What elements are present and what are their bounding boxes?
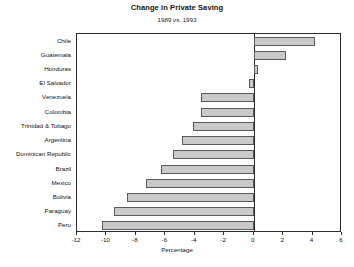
chart-subtitle: 1989 vs. 1993: [0, 16, 354, 23]
x-tick-label: 0: [251, 236, 254, 243]
x-tick-label: -2: [220, 236, 226, 243]
x-tick-mark: [253, 232, 254, 235]
y-axis-label: Paraguay: [45, 207, 72, 214]
bar: [201, 93, 254, 102]
bar: [161, 165, 254, 174]
bar: [173, 150, 254, 159]
bar: [254, 51, 286, 60]
chart-container: Change in Private Saving 1989 vs. 1993 C…: [0, 0, 354, 267]
chart-title: Change in Private Saving: [0, 3, 354, 12]
x-tick-label: -12: [72, 236, 81, 243]
x-tick-mark: [164, 232, 165, 235]
y-axis-label: Dominican Republic: [16, 150, 71, 157]
y-axis-label: Chile: [57, 37, 71, 44]
x-tick-mark: [223, 232, 224, 235]
y-axis-label: Venezuela: [42, 93, 71, 100]
y-axis-label: Bolivia: [53, 193, 71, 200]
bar: [146, 179, 253, 188]
x-tick-mark: [312, 232, 313, 235]
y-axis-label: Brazil: [56, 165, 71, 172]
y-axis-label: Peru: [58, 221, 71, 228]
y-axis-label: Argentina: [45, 136, 72, 143]
bar: [127, 193, 254, 202]
bar: [254, 37, 316, 46]
x-tick-mark: [282, 232, 283, 235]
x-tick-label: -8: [132, 236, 138, 243]
x-tick-mark: [76, 232, 77, 235]
y-axis-label: El Salvador: [39, 79, 71, 86]
y-axis-label: Trinidad & Tobago: [21, 122, 71, 129]
x-tick-label: -10: [101, 236, 110, 243]
y-axis-category-labels: ChileGuatemalaHondurasEl SalvadorVenezue…: [0, 33, 74, 232]
x-tick-label: -6: [162, 236, 168, 243]
bar: [182, 136, 254, 145]
x-tick-label: 6: [339, 236, 342, 243]
y-axis-label: Colombia: [45, 108, 71, 115]
bar: [254, 65, 258, 74]
bar: [102, 221, 254, 230]
x-tick-mark: [341, 232, 342, 235]
x-tick-mark: [194, 232, 195, 235]
y-axis-label: Honduras: [44, 65, 71, 72]
bar: [249, 79, 253, 88]
bar: [193, 122, 253, 131]
bar: [114, 207, 254, 216]
bar: [201, 108, 254, 117]
y-axis-label: Mexico: [51, 179, 71, 186]
x-tick-mark: [105, 232, 106, 235]
x-tick-mark: [135, 232, 136, 235]
x-tick-label: -4: [191, 236, 197, 243]
y-axis-label: Guatemala: [41, 51, 71, 58]
x-axis-title: Percentage: [0, 246, 354, 253]
x-tick-label: 2: [280, 236, 283, 243]
x-tick-label: 4: [310, 236, 313, 243]
plot-area: [76, 33, 341, 232]
zero-baseline: [254, 34, 255, 231]
